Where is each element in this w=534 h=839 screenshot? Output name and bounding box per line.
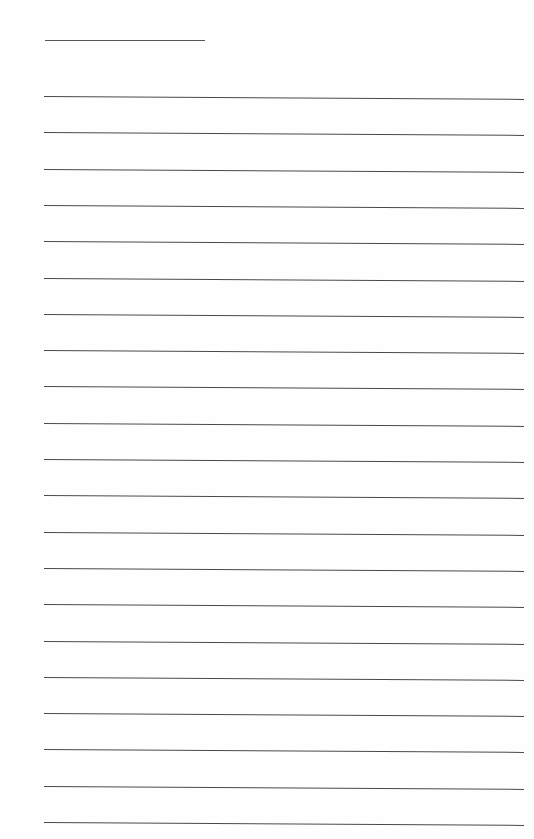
ruled-line (44, 822, 524, 826)
lined-page (0, 0, 534, 839)
ruled-line (44, 350, 524, 354)
ruled-line (44, 604, 524, 608)
ruled-line (44, 386, 524, 390)
ruled-line (44, 459, 524, 463)
ruled-line (44, 423, 524, 427)
ruled-line (44, 495, 524, 499)
ruled-line (44, 713, 524, 717)
ruled-line (44, 205, 524, 209)
ruled-line (44, 749, 524, 753)
ruled-line (44, 241, 524, 245)
ruled-line (44, 641, 524, 645)
ruled-line (44, 677, 524, 681)
ruled-line (44, 314, 524, 318)
title-underline (45, 40, 205, 41)
ruled-line (44, 786, 524, 790)
ruled-line (44, 532, 524, 536)
ruled-line (44, 96, 524, 100)
ruled-line (44, 278, 524, 282)
ruled-line (44, 132, 524, 136)
ruled-line (44, 169, 524, 173)
ruled-line (44, 568, 524, 572)
